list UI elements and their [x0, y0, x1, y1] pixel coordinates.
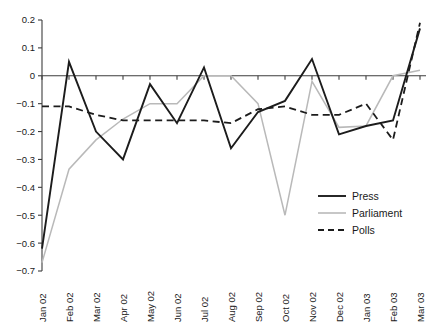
legend-label-polls: Polls [352, 224, 375, 236]
y-tick-label: 0 [30, 70, 35, 81]
series-line-polls [42, 23, 420, 140]
legend-label-parliament: Parliament [352, 207, 402, 219]
legend-label-press: Press [352, 190, 379, 202]
x-tick-label: Jul 02 [199, 297, 210, 322]
x-tick-label: Aug 02 [226, 292, 237, 322]
y-tick-label: −0.3 [16, 154, 35, 165]
legend-item-parliament: Parliament [318, 207, 402, 219]
x-tick-label: Mar 03 [415, 292, 426, 322]
y-tick-label: 0.1 [22, 42, 35, 53]
x-tick-label: Jun 02 [172, 293, 183, 322]
x-tick-label: Feb 03 [388, 292, 399, 322]
y-tick-label: −0.5 [16, 210, 35, 221]
y-tick-label: −0.2 [16, 126, 35, 137]
x-tick-label: Dec 02 [334, 292, 345, 322]
chart-canvas: 0.20.10−0.1−0.2−0.3−0.4−0.5−0.6−0.7Jan 0… [0, 0, 430, 328]
legend-item-press: Press [318, 190, 379, 202]
x-tick-label: Nov 02 [307, 292, 318, 322]
y-tick-label: −0.1 [16, 98, 35, 109]
x-tick-label: Jan 03 [361, 293, 372, 322]
x-tick-label: Oct 02 [280, 294, 291, 322]
line-chart: 0.20.10−0.1−0.2−0.3−0.4−0.5−0.6−0.7Jan 0… [0, 0, 430, 328]
x-tick-label: Feb 02 [64, 292, 75, 322]
y-tick-label: −0.6 [16, 238, 35, 249]
y-tick-label: 0.2 [22, 14, 35, 25]
legend-item-polls: Polls [318, 224, 375, 236]
chart-legend: PressParliamentPolls [318, 190, 402, 236]
x-tick-label: Jan 02 [37, 293, 48, 322]
x-tick-label: Mar 02 [91, 292, 102, 322]
x-tick-label: Sep 02 [253, 292, 264, 322]
x-tick-label: Apr 02 [118, 294, 129, 322]
axes-group: 0.20.10−0.1−0.2−0.3−0.4−0.5−0.6−0.7 [16, 14, 426, 276]
x-tick-label: May 02 [145, 291, 156, 322]
y-tick-label: −0.7 [16, 265, 35, 276]
y-tick-label: −0.4 [16, 182, 35, 193]
